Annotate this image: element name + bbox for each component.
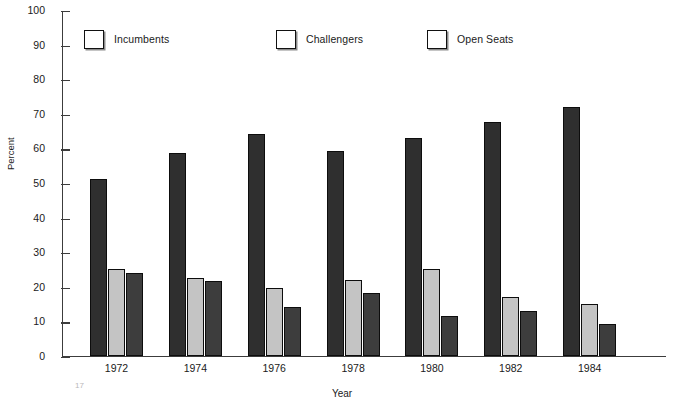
bar-group — [405, 10, 458, 356]
bar — [363, 293, 380, 355]
y-tick-label: 20 — [15, 281, 45, 293]
y-tick-label: 0 — [15, 350, 45, 362]
bar — [327, 151, 344, 355]
x-tick-label: 1978 — [318, 362, 388, 374]
y-tick-label: 70 — [15, 108, 45, 120]
x-tick-label: 1972 — [82, 362, 152, 374]
bar — [108, 269, 125, 356]
y-tick: 70 — [61, 115, 70, 116]
y-tick: 80 — [61, 80, 70, 81]
bar-group — [484, 10, 537, 356]
y-tick: 50 — [61, 184, 70, 185]
bar — [484, 122, 501, 356]
bar — [599, 324, 616, 355]
y-tick: 90 — [61, 46, 70, 47]
bar — [502, 297, 519, 356]
bar — [345, 280, 362, 356]
y-tick-label: 100 — [15, 4, 45, 16]
bar — [441, 316, 458, 356]
y-tick: 40 — [61, 219, 70, 220]
y-tick-label: 90 — [15, 39, 45, 51]
y-tick-label: 10 — [15, 315, 45, 327]
bar — [284, 307, 301, 355]
x-axis-label: Year — [0, 388, 684, 399]
bar — [248, 134, 265, 355]
bar-group — [563, 10, 616, 356]
bar-group — [248, 10, 301, 356]
x-axis-line — [62, 356, 666, 357]
plot-area: 1009080706050403020100 — [62, 11, 666, 357]
bar — [405, 138, 422, 356]
bar — [126, 273, 143, 356]
bar — [90, 179, 107, 355]
y-tick: 10 — [61, 322, 70, 323]
y-tick-label: 80 — [15, 73, 45, 85]
x-tick-label: 1980 — [397, 362, 467, 374]
y-tick: 0 — [61, 357, 70, 358]
bar — [187, 278, 204, 356]
x-tick-label: 1974 — [160, 362, 230, 374]
bar — [423, 269, 440, 356]
bar — [581, 304, 598, 356]
y-tick: 60 — [61, 149, 70, 150]
x-tick-label: 1982 — [476, 362, 546, 374]
bar-group — [169, 10, 222, 356]
y-tick-label: 40 — [15, 212, 45, 224]
y-tick-label: 60 — [15, 142, 45, 154]
y-tick-label: 30 — [15, 246, 45, 258]
x-tick-label: 1984 — [555, 362, 625, 374]
bar — [205, 281, 222, 355]
bar — [266, 288, 283, 355]
bar — [169, 153, 186, 355]
bar-group — [90, 10, 143, 356]
bar — [563, 107, 580, 356]
bar-group — [327, 10, 380, 356]
bar-chart: Incumbents Challengers Open Seats Percen… — [0, 0, 684, 405]
y-tick: 20 — [61, 288, 70, 289]
y-tick: 30 — [61, 253, 70, 254]
y-tick-label: 50 — [15, 177, 45, 189]
y-tick: 100 — [61, 11, 70, 12]
scan-artifact-mark: 17 — [75, 381, 84, 390]
bar — [520, 311, 537, 356]
x-tick-label: 1976 — [239, 362, 309, 374]
